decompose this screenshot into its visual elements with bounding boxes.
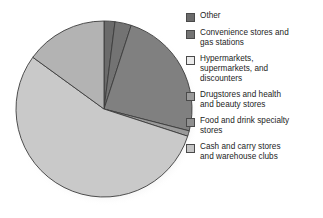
chart-legend: Other Convenience stores and gas station… <box>186 11 323 211</box>
legend-label: Food and drink specialty stores <box>200 116 289 137</box>
legend-swatch-food-and-drink-specialty-stores <box>186 118 195 127</box>
pie-slices <box>16 21 192 197</box>
pie-chart-svg <box>0 0 196 218</box>
legend-label: Drugstores and health and beauty stores <box>200 90 281 111</box>
legend-swatch-cash-and-carry-stores-and-warehouse-clubs <box>186 144 195 153</box>
legend-item[interactable]: Drugstores and health and beauty stores <box>186 90 323 111</box>
legend-item[interactable]: Cash and carry stores and warehouse club… <box>186 142 323 163</box>
legend-swatch-other <box>186 13 195 22</box>
legend-item[interactable]: Hypermarkets, supermarkets, and discount… <box>186 54 323 85</box>
legend-item[interactable]: Convenience stores and gas stations <box>186 28 323 49</box>
legend-label: Other <box>200 11 221 21</box>
legend-label: Cash and carry stores and warehouse club… <box>200 142 281 163</box>
legend-item[interactable]: Other <box>186 11 323 22</box>
pie-plot-area <box>0 0 196 218</box>
legend-label: Convenience stores and gas stations <box>200 28 289 49</box>
legend-swatch-convenience-stores-and-gas-stations <box>186 30 195 39</box>
legend-swatch-hypermarkets-supermarkets-and-discounters <box>186 56 195 65</box>
legend-item[interactable]: Food and drink specialty stores <box>186 116 323 137</box>
legend-label: Hypermarkets, supermarkets, and discount… <box>200 54 268 85</box>
legend-swatch-drugstores-and-health-and-beauty-stores <box>186 92 195 101</box>
pie-chart-figure: Other Convenience stores and gas station… <box>0 0 323 218</box>
